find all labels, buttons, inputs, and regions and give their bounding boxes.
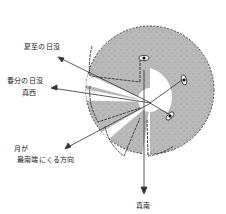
label-due-west: 真西 [22, 89, 36, 97]
label-moon-line1: 月が [14, 145, 28, 153]
label-equinox-sunset: 春分の日没 [7, 77, 43, 85]
label-moon-line2: 最南端にくる方向 [17, 156, 75, 164]
label-summer-solstice-sunset: 夏至の日没 [24, 43, 60, 51]
label-due-south: 真南 [136, 202, 150, 210]
eye-icon [139, 56, 149, 61]
alignment-diagram [0, 0, 226, 214]
